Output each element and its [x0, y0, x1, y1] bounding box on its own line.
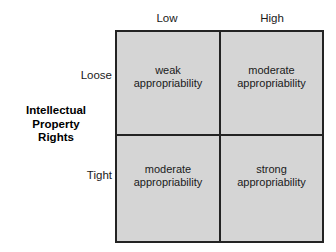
quadrant-tight-high-line-2: appropriability — [237, 176, 305, 189]
row-header-loose: Loose — [42, 68, 112, 83]
quadrant-loose-high: moderate appropriability — [221, 32, 322, 134]
quadrant-tight-low: moderate appropriability — [117, 136, 219, 241]
column-header-high: High — [220, 10, 324, 26]
matrix-grid: weak appropriability moderate appropriab… — [115, 30, 324, 243]
quadrant-tight-low-line-1: moderate — [134, 163, 202, 176]
quadrant-loose-low-line-2: appropriability — [134, 77, 202, 90]
column-header-low: Low — [115, 10, 219, 26]
matrix-horizontal-divider — [117, 134, 322, 136]
quadrant-tight-high-line-1: strong — [237, 163, 305, 176]
quadrant-tight-high-label: strong appropriability — [237, 163, 305, 189]
quadrant-tight-high: strong appropriability — [221, 136, 322, 241]
quadrant-loose-high-label: moderate appropriability — [237, 64, 305, 90]
row-axis-title-line-2: Property — [4, 118, 108, 132]
row-header-tight: Tight — [42, 168, 112, 183]
quadrant-loose-low-label: weak appropriability — [134, 64, 202, 90]
matrix-vertical-divider — [219, 32, 221, 241]
quadrant-tight-low-label: moderate appropriability — [134, 163, 202, 189]
row-axis-title-line-3: Rights — [4, 131, 108, 145]
quadrant-loose-high-line-1: moderate — [237, 64, 305, 77]
row-axis-title: Intellectual Property Rights — [4, 104, 108, 145]
row-axis-title-line-1: Intellectual — [4, 104, 108, 118]
quadrant-tight-low-line-2: appropriability — [134, 176, 202, 189]
quadrant-loose-low: weak appropriability — [117, 32, 219, 134]
quadrant-loose-low-line-1: weak — [134, 64, 202, 77]
quadrant-loose-high-line-2: appropriability — [237, 77, 305, 90]
